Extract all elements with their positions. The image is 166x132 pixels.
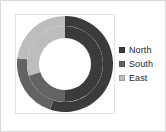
doughnut-chart[interactable]	[15, 14, 115, 114]
legend-swatch-east	[119, 75, 125, 81]
legend-label-east: East	[129, 73, 147, 83]
legend-item-east[interactable]: East	[119, 71, 165, 84]
chart-legend: North South East	[119, 43, 165, 85]
legend-item-north[interactable]: North	[119, 43, 165, 56]
legend-swatch-south	[119, 61, 125, 67]
doughnut-inner-ring	[27, 26, 103, 102]
chart-container: North South East	[0, 0, 166, 132]
legend-swatch-north	[119, 47, 125, 53]
legend-item-south[interactable]: South	[119, 57, 165, 70]
legend-label-north: North	[129, 45, 152, 55]
legend-label-south: South	[129, 59, 153, 69]
